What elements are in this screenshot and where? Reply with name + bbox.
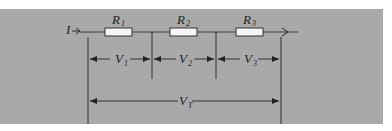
voltage-v3: V 3 xyxy=(218,51,279,68)
voltage-subscript: 1 xyxy=(124,59,128,68)
current-indicator: I xyxy=(65,22,80,37)
resistor-r2: R 2 xyxy=(170,12,197,36)
current-label: I xyxy=(65,22,71,37)
voltage-subscript: 2 xyxy=(188,59,192,68)
resistor-label: R xyxy=(242,12,251,27)
resistor-subscript: 2 xyxy=(186,19,190,28)
voltage-total-subscript: T xyxy=(188,101,193,110)
current-arrow-icon xyxy=(72,28,80,34)
resistor-label: R xyxy=(176,12,185,27)
voltage-subscript: 3 xyxy=(252,59,257,68)
voltage-v1: V 1 xyxy=(90,51,150,68)
resistor-r1: R 1 xyxy=(105,12,132,36)
voltage-v2: V 2 xyxy=(154,51,214,68)
resistor-subscript: 3 xyxy=(251,19,256,28)
resistor-r3: R 3 xyxy=(236,12,263,36)
measurement-ticks xyxy=(88,32,281,124)
resistor-subscript: 1 xyxy=(121,19,125,28)
resistor-label: R xyxy=(111,12,120,27)
voltage-total: V T xyxy=(90,93,279,110)
series-circuit-diagram: I R 1 R 2 R 3 V 1 V 2 xyxy=(0,0,392,131)
